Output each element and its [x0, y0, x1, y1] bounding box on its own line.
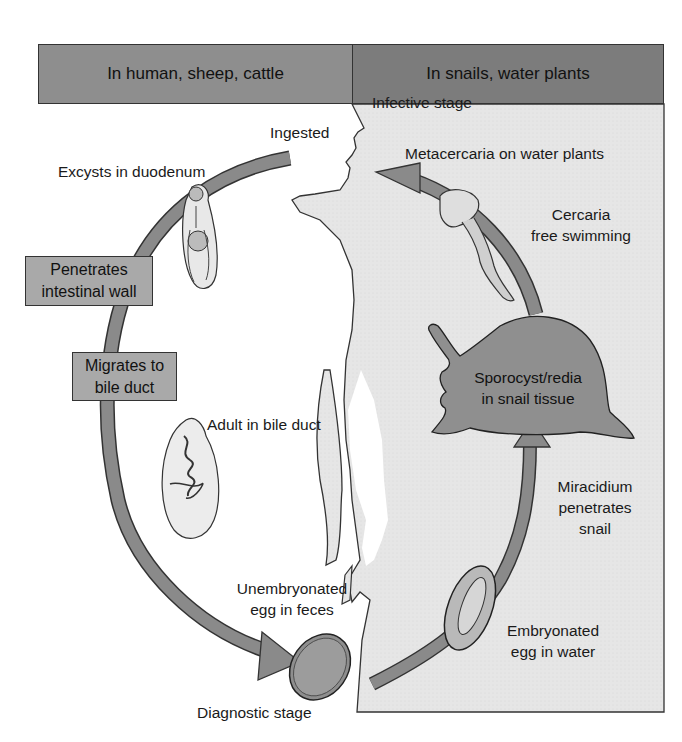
label-miracidium: Miracidium penetrates snail	[540, 476, 650, 539]
label-unembryonated-line2: egg in feces	[222, 599, 362, 620]
box-penetrates-line1: Penetrates	[41, 259, 136, 281]
label-miracidium-line1: Miracidium	[540, 476, 650, 497]
label-embryonated-line1: Embryonated	[488, 620, 618, 641]
label-cercaria: Cercaria free swimming	[516, 204, 646, 246]
adult-fluke-illustration	[162, 418, 219, 538]
label-ingested: Ingested	[270, 122, 329, 143]
life-cycle-diagram: In human, sheep, cattle In snails, water…	[0, 0, 682, 742]
box-migrates-line1: Migrates to	[85, 355, 164, 377]
unembryonated-egg-illustration	[277, 622, 363, 711]
label-cercaria-line2: free swimming	[516, 225, 646, 246]
excysted-fluke-illustration	[183, 185, 218, 289]
box-migrates-line2: bile duct	[85, 377, 164, 399]
label-embryonated-line2: egg in water	[488, 641, 618, 662]
box-penetrates-intestinal-wall: Penetrates intestinal wall	[25, 256, 153, 306]
label-excysts: Excysts in duodenum	[58, 161, 205, 182]
box-migrates-to-bile-duct: Migrates to bile duct	[72, 352, 177, 401]
header-definitive-hosts: In human, sheep, cattle	[38, 44, 352, 104]
label-unembryonated-egg: Unembryonated egg in feces	[222, 578, 362, 620]
box-penetrates-line2: intestinal wall	[41, 281, 136, 303]
label-diagnostic-stage: Diagnostic stage	[197, 702, 312, 723]
snail-label-line2: in snail tissue	[448, 388, 608, 409]
label-adult: Adult in bile duct	[207, 414, 321, 435]
label-infective-stage: Infective stage	[372, 92, 472, 113]
label-cercaria-line1: Cercaria	[516, 204, 646, 225]
snail-label-line1: Sporocyst/redia	[448, 367, 608, 388]
label-unembryonated-line1: Unembryonated	[222, 578, 362, 599]
header-left-label: In human, sheep, cattle	[107, 64, 284, 84]
header-right-label: In snails, water plants	[426, 64, 589, 84]
label-miracidium-line2: penetrates	[540, 497, 650, 518]
label-snail-stage: Sporocyst/redia in snail tissue	[448, 367, 608, 409]
label-metacercaria: Metacercaria on water plants	[405, 143, 604, 164]
label-miracidium-line3: snail	[540, 518, 650, 539]
label-embryonated-egg: Embryonated egg in water	[488, 620, 618, 662]
